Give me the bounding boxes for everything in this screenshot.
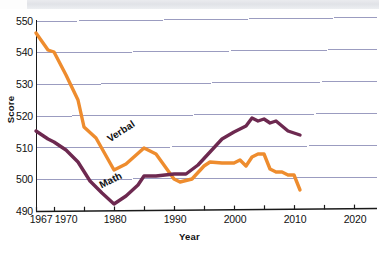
gridline-520 xyxy=(36,114,377,117)
page-caption xyxy=(6,249,336,256)
sat-score-line-chart: 550 540 530 520 510 500 490 Score xyxy=(0,0,379,256)
series-line-math xyxy=(36,118,300,204)
x-tick-label-2010: 2010 xyxy=(275,214,315,225)
x-axis-line xyxy=(36,209,377,212)
x-axis-title: Year xyxy=(0,231,379,242)
gridline-550 xyxy=(36,18,377,22)
x-tick-label-2020: 2020 xyxy=(335,214,375,225)
gridline-540 xyxy=(36,50,377,54)
x-tick-label-1970: 1970 xyxy=(46,214,86,225)
x-tick-label-2000: 2000 xyxy=(215,214,255,225)
gridline-530 xyxy=(36,82,377,85)
x-tick-label-1990: 1990 xyxy=(155,214,195,225)
x-tick-label-1980: 1980 xyxy=(95,214,135,225)
gridline-510 xyxy=(36,146,377,149)
series-line-verbal xyxy=(36,33,300,190)
